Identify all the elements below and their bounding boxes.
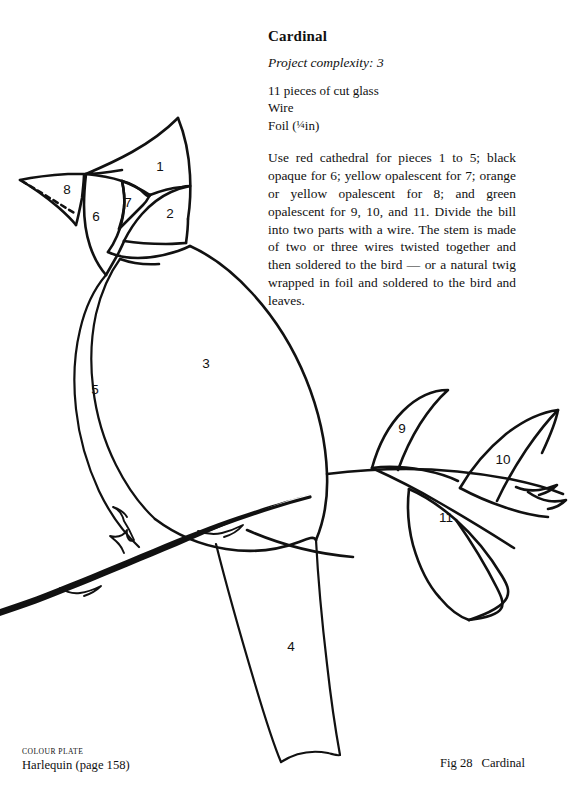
footer-left: COLOUR PLATE Harlequin (page 158) (22, 748, 130, 773)
materials-item-glass: 11 pieces of cut glass (268, 83, 516, 100)
figure-title: Cardinal (482, 756, 525, 770)
text-column: Cardinal Project complexity: 3 11 pieces… (268, 28, 516, 310)
project-complexity: Project complexity: 3 (268, 56, 516, 71)
piece-number-10: 10 (495, 452, 510, 467)
piece-number-5: 5 (91, 382, 99, 397)
figure-caption: Fig 28Cardinal (440, 756, 525, 771)
piece-number-8: 8 (63, 182, 71, 197)
piece-leaf-11 (408, 489, 508, 620)
materials-item-foil: Foil (¼in) (268, 117, 516, 135)
leaf-stem (247, 468, 566, 557)
piece-number-9: 9 (398, 421, 406, 436)
piece-number-3: 3 (202, 356, 210, 371)
perch-branch (0, 494, 311, 616)
piece-tail (216, 540, 340, 762)
piece-number-1: 1 (156, 159, 164, 174)
piece-eye-patch (119, 181, 150, 229)
piece-number-2: 2 (166, 206, 174, 221)
colour-plate-label: COLOUR PLATE (22, 748, 130, 757)
materials-list: 11 pieces of cut glass Wire Foil (¼in) (268, 83, 516, 135)
piece-number-11: 11 (439, 510, 453, 525)
materials-foil-fraction: ¼ (297, 118, 305, 130)
page-title: Cardinal (268, 28, 516, 45)
piece-face-mask (84, 174, 124, 275)
piece-cheek (124, 186, 190, 244)
piece-crest (86, 118, 190, 219)
piece-number-4: 4 (287, 639, 295, 654)
beak-wire-divider (22, 181, 76, 214)
figure-number: Fig 28 (440, 756, 473, 770)
materials-item-wire: Wire (268, 100, 516, 117)
piece-number-6: 6 (92, 209, 100, 224)
piece-beak (20, 174, 86, 225)
piece-leaf-9 (372, 390, 458, 481)
piece-number-7: 7 (124, 195, 132, 210)
piece-leaf-10 (460, 410, 558, 517)
piece-breast (74, 259, 155, 547)
materials-foil-suffix: in) (305, 118, 319, 133)
instructions-paragraph: Use red cathedral for pieces 1 to 5; bla… (268, 149, 516, 310)
materials-foil-prefix: Foil ( (268, 118, 297, 133)
colour-plate-caption: Harlequin (page 158) (22, 758, 130, 773)
